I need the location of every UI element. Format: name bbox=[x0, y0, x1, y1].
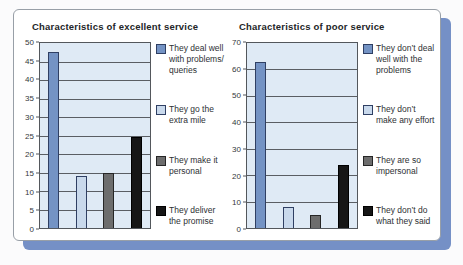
chart-body: 010203040506070 They don’t deal well wit… bbox=[229, 42, 436, 229]
legend-item: They deliver the promise bbox=[156, 205, 229, 227]
y-axis-tick-label: 20 bbox=[25, 150, 34, 159]
legend-label: They don’t do what they said bbox=[376, 205, 436, 227]
legend-item: They go the extra mile bbox=[156, 104, 229, 126]
legend-label: They don’t make any effort bbox=[376, 104, 436, 126]
legend-swatch-icon bbox=[363, 44, 373, 54]
y-axis-tick-label: 0 bbox=[30, 225, 34, 234]
legend: They don’t deal well with the problemsTh… bbox=[363, 42, 436, 229]
y-axis: 05101520253035404550 bbox=[22, 42, 39, 229]
legend-item: They don’t do what they said bbox=[363, 205, 436, 227]
y-axis-tick-label: 20 bbox=[232, 171, 241, 180]
legend-item: They deal well with problems/ queries bbox=[156, 43, 229, 76]
legend-label: They are so impersonal bbox=[376, 155, 436, 177]
y-axis-tick-label: 30 bbox=[25, 112, 34, 121]
bar-series-2 bbox=[283, 207, 294, 228]
y-axis-tick-label: 70 bbox=[232, 38, 241, 47]
y-axis-tick-label: 40 bbox=[25, 75, 34, 84]
bar-series-1 bbox=[48, 52, 59, 228]
y-axis-tick-label: 60 bbox=[232, 64, 241, 73]
legend-label: They don’t deal well with the problems bbox=[376, 43, 436, 76]
y-axis-tick-label: 10 bbox=[25, 187, 34, 196]
legend-item: They don’t make any effort bbox=[363, 104, 436, 126]
chart-title: Characteristics of excellent service bbox=[32, 21, 229, 32]
y-axis-tick-label: 45 bbox=[25, 56, 34, 65]
legend-label: They go the extra mile bbox=[169, 104, 229, 126]
legend-swatch-icon bbox=[156, 156, 166, 166]
legend-swatch-icon bbox=[363, 206, 373, 216]
legend-swatch-icon bbox=[363, 156, 373, 166]
chart-excellent-service: Characteristics of excellent service 051… bbox=[22, 17, 229, 229]
plot-area bbox=[246, 42, 358, 229]
y-axis-tick-label: 40 bbox=[232, 118, 241, 127]
legend-label: They make it personal bbox=[169, 155, 229, 177]
y-axis-tick-label: 0 bbox=[237, 225, 241, 234]
y-axis-tick-label: 15 bbox=[25, 168, 34, 177]
charts-panel: Characteristics of excellent service 051… bbox=[13, 9, 441, 241]
legend-item: They make it personal bbox=[156, 155, 229, 177]
bar-series-3 bbox=[310, 215, 321, 228]
legend-label: They deal well with problems/ queries bbox=[169, 43, 229, 76]
y-axis-tick-label: 50 bbox=[232, 91, 241, 100]
y-axis-tick-label: 50 bbox=[25, 38, 34, 47]
y-axis-tick-label: 5 bbox=[30, 206, 34, 215]
y-axis-tick-label: 10 bbox=[232, 198, 241, 207]
y-axis: 010203040506070 bbox=[229, 42, 246, 229]
chart-title: Characteristics of poor service bbox=[239, 21, 436, 32]
legend-item: They don’t deal well with the problems bbox=[363, 43, 436, 76]
legend-item: They are so impersonal bbox=[363, 155, 436, 177]
y-axis-tick-label: 35 bbox=[25, 94, 34, 103]
plot-area bbox=[39, 42, 151, 229]
bar-series-4 bbox=[338, 165, 349, 228]
chart-body: 05101520253035404550 They deal well with… bbox=[22, 42, 229, 229]
y-axis-tick-label: 25 bbox=[25, 131, 34, 140]
legend-label: They deliver the promise bbox=[169, 205, 229, 227]
y-axis-tick-label: 30 bbox=[232, 144, 241, 153]
bar-series-1 bbox=[255, 62, 266, 229]
bar-series-2 bbox=[76, 176, 87, 228]
chart-poor-service: Characteristics of poor service 01020304… bbox=[229, 17, 436, 229]
bar-series-3 bbox=[103, 173, 114, 229]
legend-swatch-icon bbox=[363, 105, 373, 115]
legend-swatch-icon bbox=[156, 44, 166, 54]
legend-swatch-icon bbox=[156, 105, 166, 115]
bar-series-4 bbox=[131, 137, 142, 228]
legend: They deal well with problems/ queriesThe… bbox=[156, 42, 229, 229]
page: Characteristics of excellent service 051… bbox=[0, 0, 463, 265]
legend-swatch-icon bbox=[156, 206, 166, 216]
